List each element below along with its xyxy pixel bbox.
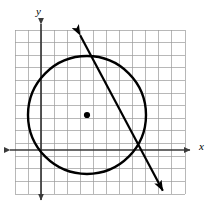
geometry-figure: y x bbox=[0, 0, 213, 212]
x-axis-label: x bbox=[199, 141, 204, 152]
center-point bbox=[84, 112, 90, 118]
y-axis-label: y bbox=[36, 6, 41, 17]
secant-line bbox=[80, 35, 163, 191]
coordinate-plane-svg bbox=[0, 0, 213, 212]
